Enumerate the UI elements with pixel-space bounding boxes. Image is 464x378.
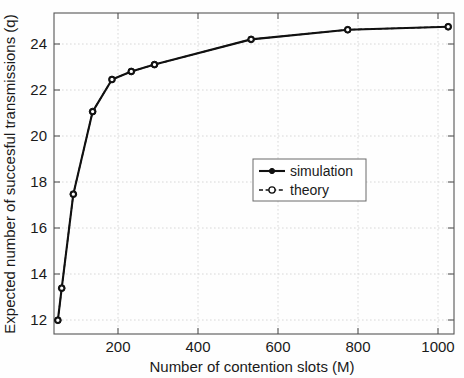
- x-tick-labels: 200 400 600 800 1000: [105, 338, 454, 355]
- data-point-theory: [249, 37, 254, 42]
- y-tick-label: 14: [30, 265, 47, 282]
- y-axis-title: Expected number of succesful transmissio…: [1, 14, 18, 333]
- figure-container: 24 22 20 18 16 14 12 200 400 600 800 100…: [0, 0, 464, 378]
- data-point-theory: [345, 27, 350, 32]
- legend-label-theory: theory: [290, 182, 329, 198]
- legend-marker-simulation: [269, 168, 274, 173]
- y-tick-label: 18: [30, 173, 47, 190]
- x-tick-label: 600: [265, 338, 290, 355]
- legend-label-simulation: simulation: [290, 163, 353, 179]
- data-point-theory: [129, 69, 134, 74]
- data-point-theory: [446, 24, 451, 29]
- y-tick-labels: 24 22 20 18 16 14 12: [30, 35, 47, 328]
- x-tick-label: 800: [345, 338, 370, 355]
- legend[interactable]: simulation theory: [253, 159, 366, 201]
- legend-marker-theory: [269, 187, 275, 193]
- y-tick-label: 12: [30, 311, 47, 328]
- y-tick-label: 20: [30, 127, 47, 144]
- y-tick-label: 22: [30, 81, 47, 98]
- data-point-theory: [90, 109, 95, 114]
- data-point-theory: [59, 286, 64, 291]
- data-point-theory: [110, 77, 115, 82]
- x-tick-label: 200: [105, 338, 130, 355]
- x-tick-label: 1000: [421, 338, 454, 355]
- data-point-theory: [152, 62, 157, 67]
- data-point-theory: [71, 192, 76, 197]
- y-tick-label: 16: [30, 219, 47, 236]
- y-tick-label: 24: [30, 35, 47, 52]
- chart-svg: 24 22 20 18 16 14 12 200 400 600 800 100…: [0, 0, 464, 378]
- data-point-theory: [56, 318, 61, 323]
- x-axis-title: Number of contention slots (M): [149, 358, 354, 375]
- x-tick-label: 400: [185, 338, 210, 355]
